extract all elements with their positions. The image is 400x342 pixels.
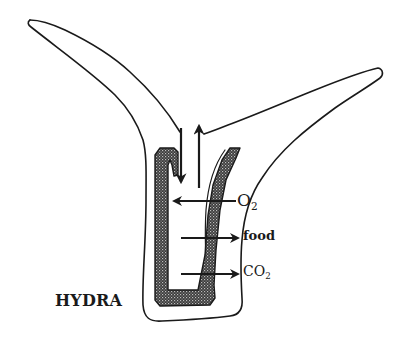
carbon-dioxide-label: CO2: [243, 263, 271, 281]
food-label: food: [243, 228, 275, 243]
hydra-title-label: HYDRA: [55, 291, 122, 310]
mouth-arrows: [181, 126, 199, 188]
gastrovascular-cavity: [155, 148, 240, 306]
oxygen-label: O2: [237, 190, 258, 212]
